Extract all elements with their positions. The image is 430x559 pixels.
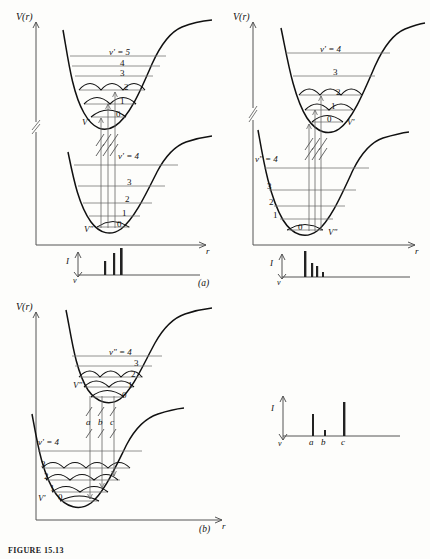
frequency-axis-label: ν xyxy=(73,277,77,285)
lower-level-label-0: 0 xyxy=(117,220,122,229)
panel-a-left-svg xyxy=(0,0,225,292)
panel-b-svg xyxy=(0,296,430,541)
upper-level-label-1: 1 xyxy=(128,381,133,390)
upper-level-top-label: v' = 4 xyxy=(320,45,341,54)
lower-level-label-1: 1 xyxy=(50,484,55,493)
upper-level-label-3: 3 xyxy=(134,359,139,368)
spectrum-bars-b xyxy=(312,402,345,436)
spectrum-bar-label-c: c xyxy=(341,438,345,447)
upper-level-label-0: 0 xyxy=(116,110,121,119)
upper-level-top-label: v" = 4 xyxy=(109,348,132,357)
spectrum-axes-b xyxy=(279,396,400,440)
panel-a-label: (a) xyxy=(198,278,209,288)
lower-potential-curve-a-left xyxy=(68,136,212,233)
lower-level-label-2: 2 xyxy=(269,198,274,207)
spectrum-bars-a-left xyxy=(104,248,123,275)
upper-curve-label: V" xyxy=(73,381,82,390)
energy-axis-a-left xyxy=(32,22,40,245)
upper-level-label-1: 1 xyxy=(120,97,125,106)
figure-caption: FIGURE 15.13 xyxy=(8,546,64,555)
spectrum-bars-a-right xyxy=(304,251,324,277)
upper-level-label-3: 3 xyxy=(333,68,338,77)
energy-axis-b xyxy=(33,312,39,520)
transition-lines-a-left xyxy=(99,92,118,228)
transition-label-a: a xyxy=(86,418,91,427)
upper-level-label-3: 3 xyxy=(120,69,125,78)
r-axis-a-left xyxy=(36,242,206,248)
upper-level-label-2: 2 xyxy=(131,370,136,379)
lower-level-label-3: 3 xyxy=(267,182,272,191)
lower-level-label-2: 2 xyxy=(44,472,49,481)
lower-level-top-label: v' = 4 xyxy=(118,152,139,161)
panel-b-label: (b) xyxy=(199,524,210,534)
panel-a-right: V(r) r I ν V' V" v' = 4 3 2 1 0 v" = 4 3… xyxy=(225,0,430,292)
upper-level-label-2: 2 xyxy=(336,88,341,97)
lower-level-label-2: 2 xyxy=(125,195,130,204)
lower-wavefunctions-a-right xyxy=(287,225,323,231)
r-axis-a-right xyxy=(253,242,415,248)
upper-curve-label: V' xyxy=(347,118,354,127)
energy-axis-label: V(r) xyxy=(16,302,33,312)
upper-level-label-2: 2 xyxy=(124,83,129,92)
transition-lines-b xyxy=(88,396,117,499)
upper-level-label-1: 1 xyxy=(331,102,336,111)
transition-label-b: b xyxy=(98,418,103,427)
lower-level-top-label: v" = 4 xyxy=(255,155,278,164)
transition-break-marks-a-right xyxy=(305,138,327,160)
lower-curve-label: V" xyxy=(84,225,93,234)
spectrum-bar-label-a: a xyxy=(309,438,314,447)
lower-potential-curve-b xyxy=(32,408,184,507)
transition-label-c: c xyxy=(110,418,114,427)
panel-b: V(r) r I ν V" V' v" = 4 3 2 1 0 v' = 4 3… xyxy=(0,296,430,541)
r-axis-b xyxy=(36,517,222,523)
lower-level-label-0: 0 xyxy=(58,493,63,502)
spectrum-axes-a-left xyxy=(74,252,200,277)
intensity-axis-label: I xyxy=(270,259,273,268)
r-axis-label: r xyxy=(206,247,210,256)
lower-curve-label: V" xyxy=(328,228,337,237)
lower-curve-label: V' xyxy=(38,494,45,503)
upper-potential-curve-a-left xyxy=(63,20,212,129)
spectrum-bar-label-b: b xyxy=(321,438,326,447)
upper-level-label-0: 0 xyxy=(122,391,127,400)
upper-level-label-0: 0 xyxy=(327,115,332,124)
upper-vib-levels-b xyxy=(72,356,162,397)
r-axis-label: r xyxy=(415,247,419,256)
lower-level-label-3: 3 xyxy=(41,460,46,469)
lower-level-top-label: v' = 4 xyxy=(38,438,59,447)
energy-axis-label: V(r) xyxy=(16,12,33,22)
intensity-axis-label: I xyxy=(271,404,274,413)
lower-vib-levels-a-right xyxy=(264,168,369,230)
upper-curve-label: V' xyxy=(82,118,89,127)
energy-axis-label: V(r) xyxy=(233,12,250,22)
frequency-axis-label: ν xyxy=(277,279,281,287)
lower-level-label-0: 0 xyxy=(298,223,303,232)
upper-potential-curve-b xyxy=(66,308,212,403)
intensity-axis-label: I xyxy=(66,257,69,266)
energy-axis-a-right xyxy=(249,22,257,245)
transition-lines-a-right xyxy=(307,96,324,231)
lower-potential-curve-a-right xyxy=(258,130,409,235)
lower-level-label-3: 3 xyxy=(127,178,132,187)
frequency-axis-label: ν xyxy=(278,440,282,448)
lower-level-label-1: 1 xyxy=(273,211,278,220)
upper-level-label-4: 4 xyxy=(120,59,125,68)
spectrum-axes-a-right xyxy=(278,254,410,279)
r-axis-label: r xyxy=(222,522,226,531)
panel-a-left: V(r) r I ν V' V" v' = 5 4 3 2 1 0 v' = 4… xyxy=(0,0,225,292)
upper-level-top-label: v' = 5 xyxy=(109,48,130,57)
lower-level-label-1: 1 xyxy=(122,209,127,218)
